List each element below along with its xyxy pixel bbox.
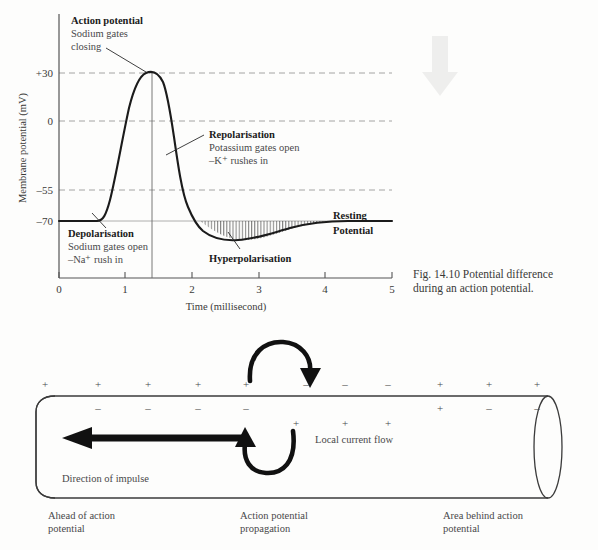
charge-outer-2: + — [145, 378, 151, 390]
annotation-repolarisation-line2: –K⁺ rushes in — [208, 155, 269, 166]
annotation-action-potential-line2: closing — [71, 41, 102, 52]
charge-outer-10: + — [534, 378, 540, 390]
axon-caption-propagation-line2: propagation — [240, 523, 291, 534]
local-current-arrow-upper — [250, 342, 310, 381]
annotation-repolarisation: Repolarisation Potassium gates open –K⁺ … — [208, 129, 300, 166]
annotation-hyperpolarisation: Hyperpolarisation — [209, 253, 291, 264]
charge-inner-6: + — [385, 417, 391, 429]
annotation-repolarisation-line1: Potassium gates open — [209, 142, 300, 153]
charge-outer-3: + — [195, 378, 201, 390]
charge-inner-3: – — [242, 402, 249, 414]
y-tick-label-minus55: –55 — [36, 184, 54, 196]
x-tick-label-0: 0 — [56, 283, 62, 295]
charge-inner-4: + — [293, 417, 299, 429]
charge-inner-0: – — [94, 402, 101, 414]
axon-caption-behind: Area behind action potential — [443, 510, 524, 534]
watermark-down-arrow — [422, 36, 458, 96]
x-tick-label-5: 5 — [389, 283, 395, 295]
annotation-resting-potential: Resting Potential — [333, 210, 373, 236]
direction-of-impulse-arrow — [62, 427, 243, 449]
x-tick-label-2: 2 — [189, 283, 195, 295]
figure-caption: Fig. 14.10 Potential difference during a… — [413, 268, 553, 295]
annotation-depolarisation: Depolarisation Sodium gates open –Na⁺ ru… — [67, 228, 149, 265]
charge-inner-7: + — [437, 402, 443, 414]
y-tick-label-minus70: –70 — [36, 215, 54, 227]
axon-caption-ahead-line2: potential — [48, 523, 85, 534]
annotation-repolarisation-title: Repolarisation — [209, 129, 275, 140]
axon-caption-propagation-line1: Action potential — [240, 510, 308, 521]
direction-of-impulse-label: Direction of impulse — [62, 473, 149, 484]
y-tick-label-plus30: +30 — [36, 67, 54, 79]
charge-outer-0: + — [42, 378, 48, 390]
axon-left-cap — [36, 396, 55, 498]
annotation-resting-potential-line1: Resting — [333, 210, 368, 221]
local-current-flow-label: Local current flow — [315, 434, 394, 445]
charge-outer-6: – — [341, 378, 348, 390]
annotation-resting-potential-line2: Potential — [333, 225, 373, 236]
x-tick-label-1: 1 — [122, 283, 128, 295]
charge-outer-1: + — [95, 378, 101, 390]
action-potential-chart: 0 1 2 3 4 5 +30 0 –55 –70 Membrane poten… — [17, 14, 395, 313]
charge-inner-1: – — [144, 402, 151, 414]
annotation-action-potential: Action potential Sodium gates closing — [71, 15, 143, 52]
axon-caption-behind-line1: Area behind action — [443, 510, 524, 521]
annotation-depolarisation-title: Depolarisation — [68, 228, 134, 239]
charge-inner-5: + — [342, 417, 348, 429]
y-axis-title: Membrane potential (mV) — [17, 92, 29, 203]
axon-propagation-diagram: + + + + + – – – + + + – – – – + + + + – … — [36, 342, 562, 534]
annotation-depolarisation-line2: –Na⁺ rush in — [67, 254, 124, 265]
x-tick-label-4: 4 — [322, 283, 328, 295]
figure-caption-line1: Fig. 14.10 Potential difference — [413, 268, 553, 281]
axon-caption-behind-line2: potential — [443, 523, 480, 534]
charge-outer-7: – — [384, 378, 391, 390]
annotation-action-potential-title: Action potential — [71, 15, 143, 26]
axon-caption-ahead-line1: Ahead of action — [48, 510, 116, 521]
local-current-arrow-lower — [245, 431, 294, 473]
x-axis-ticks — [59, 272, 392, 278]
figure-caption-line2: during an action potential. — [413, 282, 534, 295]
axon-outer-charges: + + + + + – – – + + + — [42, 378, 540, 390]
x-axis-title: Time (millisecond) — [186, 301, 267, 313]
charge-inner-2: – — [194, 402, 201, 414]
axon-caption-ahead: Ahead of action potential — [48, 510, 116, 534]
figure-action-potential: 0 1 2 3 4 5 +30 0 –55 –70 Membrane poten… — [0, 0, 598, 550]
annotation-action-potential-line1: Sodium gates — [71, 28, 128, 39]
axon-inner-charges: – – – – + + + + – – — [94, 402, 540, 429]
charge-inner-8: – — [485, 402, 492, 414]
annotation-depolarisation-line1: Sodium gates open — [68, 241, 149, 252]
x-tick-label-3: 3 — [256, 283, 262, 295]
charge-inner-9: – — [533, 402, 540, 414]
y-tick-label-zero: 0 — [48, 115, 54, 127]
charge-outer-8: + — [437, 378, 443, 390]
charge-outer-9: + — [486, 378, 492, 390]
axon-caption-propagation: Action potential propagation — [240, 510, 308, 534]
hyperpolarisation-hatching — [200, 221, 348, 240]
